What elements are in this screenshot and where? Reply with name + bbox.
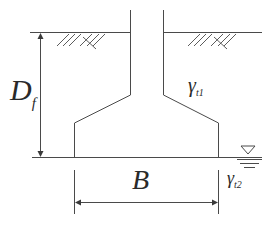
gamma-t1-main: γ: [188, 74, 196, 96]
unit-weight-below-label: γt2: [227, 169, 242, 190]
depth-label-main: D: [10, 73, 32, 106]
gamma-t2-sub: t2: [234, 179, 242, 190]
width-label-main: B: [132, 164, 149, 195]
foundation-diagram: [0, 0, 278, 236]
water-table-icon: [237, 146, 262, 168]
b-arrow-right-icon: [212, 200, 218, 206]
df-arrow-top-icon: [38, 33, 44, 39]
ground-hatch-left-icon: [57, 34, 105, 49]
ground-hatch-right-icon: [188, 34, 236, 49]
depth-label-sub: f: [32, 95, 36, 111]
gamma-t1-sub: t1: [196, 87, 204, 98]
unit-weight-above-label: γt1: [188, 75, 204, 98]
df-arrow-bottom-icon: [38, 151, 44, 157]
b-arrow-left-icon: [75, 200, 81, 206]
depth-label: Df: [10, 75, 36, 111]
width-label: B: [132, 166, 149, 194]
